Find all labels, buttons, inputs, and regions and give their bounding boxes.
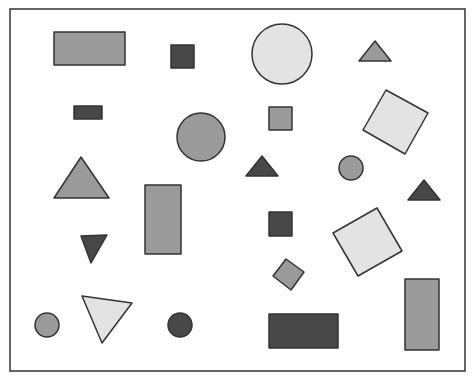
circle-top-large-shape — [252, 24, 312, 84]
square-top-dark-shape — [171, 45, 194, 68]
rect-tall-center-shape — [145, 185, 181, 254]
circle-bottom-dark-shape — [168, 313, 192, 337]
rect-bottom-dark-shape — [269, 314, 338, 348]
circle-small-right-shape — [339, 156, 363, 180]
square-mid-medium-shape — [269, 107, 292, 130]
rect-top-left-shape — [54, 32, 125, 65]
rect-bottom-right-shape — [405, 279, 439, 350]
square-center-dark-shape — [269, 212, 292, 236]
circle-bottom-left-shape — [35, 313, 59, 337]
circle-mid-medium-shape — [177, 113, 225, 161]
rect-small-dark-shape — [74, 106, 102, 119]
shapes-diagram — [0, 0, 474, 379]
